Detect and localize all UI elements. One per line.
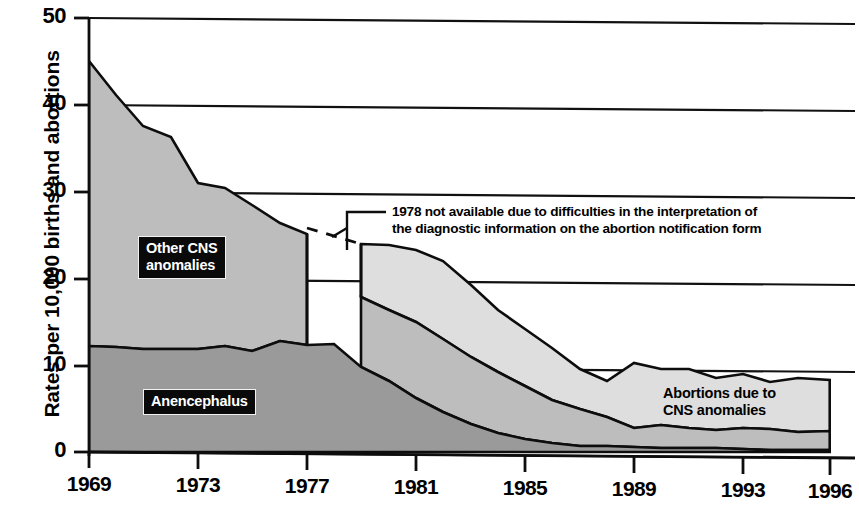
x-tick-label-1981: 1981 [374,475,458,499]
y-tick-marks [74,18,89,452]
series-label-anencephalus: Anencephalus [143,389,256,415]
series-label-other-cns: Other CNS anomalies [138,236,226,279]
y-tick-label-10: 10 [20,351,66,377]
x-tick-label-1996: 1996 [788,479,859,503]
series-label-abortions: Abortions due to CNS anomalies [663,385,776,420]
x-tick-label-1973: 1973 [156,473,240,497]
y-tick-label-30: 30 [20,177,66,203]
x-tick-label-1977: 1977 [265,474,349,498]
x-tick-label-1985: 1985 [483,476,567,500]
gap-annotation-text: 1978 not available due to difficulties i… [392,203,761,238]
chart-container: Rates per 10,000 births and abortions [0,0,859,508]
y-tick-label-50: 50 [20,3,66,29]
x-tick-label-1969: 1969 [47,472,131,496]
x-tick-label-1989: 1989 [592,477,676,501]
x-tick-label-1993: 1993 [701,478,785,502]
chart-plot-area [0,0,859,508]
area-other-cns [89,61,307,351]
y-tick-label-40: 40 [20,90,66,116]
y-tick-label-0: 0 [20,437,66,463]
y-tick-label-20: 20 [20,264,66,290]
